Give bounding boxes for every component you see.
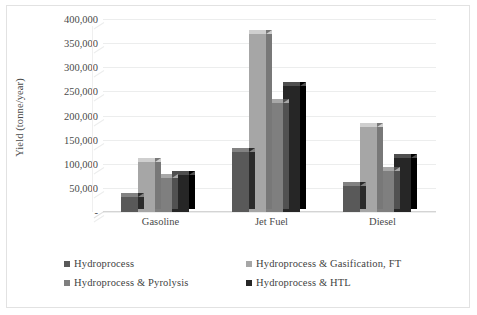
y-axis-line — [92, 26, 93, 212]
bar-top-corner — [360, 182, 366, 186]
bar-side-face — [377, 123, 383, 209]
y-axis-tick-label: 400,000 — [64, 14, 98, 25]
bar-top-corner — [394, 167, 400, 171]
legend-color-swatch — [246, 280, 252, 286]
legend-item-label: Hydroprocess & Pyrolysis — [74, 277, 188, 288]
bar — [343, 185, 360, 212]
y-axis-title: Yield (tonne/year) — [14, 53, 25, 183]
bar-top-face — [343, 182, 360, 186]
bar-top-corner — [411, 154, 417, 158]
gridline — [103, 212, 436, 213]
bar-side-face — [172, 174, 178, 209]
bar-top-corner — [283, 99, 289, 103]
bar-top-face — [249, 30, 266, 34]
bar-front-face — [343, 185, 360, 212]
legend-item-label: Hydroprocess & HTL — [256, 277, 351, 288]
bar-top-corner — [300, 82, 306, 86]
bar-top-corner — [155, 158, 161, 162]
chart-legend: HydroprocessHydroprocess & Gasification,… — [64, 258, 420, 298]
legend-item-label: Hydroprocess — [74, 258, 134, 269]
x-axis-category-labels: GasolineJet FuelDiesel — [103, 216, 436, 236]
bar-side-face — [189, 171, 195, 209]
bar-top-corner — [266, 30, 272, 34]
legend-item[interactable]: Hydroprocess & Pyrolysis — [64, 277, 188, 288]
bar-side-face — [283, 99, 289, 209]
legend-color-swatch — [64, 280, 70, 286]
bar-top-corner — [189, 171, 195, 175]
plot-wrapper: Yield (tonne/year) -50,000100,000150,000… — [0, 0, 477, 250]
bar-top-face — [283, 82, 300, 86]
bar-top-face — [121, 193, 138, 197]
bar-group — [121, 19, 189, 212]
x-axis-category-label: Jet Fuel — [255, 216, 288, 227]
bar-side-face — [249, 148, 255, 209]
bar-top-face — [360, 123, 377, 127]
bar-top-corner — [172, 174, 178, 178]
legend-item[interactable]: Hydroprocess — [64, 258, 134, 269]
legend-color-swatch — [64, 261, 70, 267]
bar-group — [343, 19, 411, 212]
legend-color-swatch — [246, 261, 252, 267]
x-axis-category-label: Gasoline — [142, 216, 179, 227]
bar-top-corner — [377, 123, 383, 127]
legend-item[interactable]: Hydroprocess & Gasification, FT — [246, 258, 401, 269]
x-axis-category-label: Diesel — [369, 216, 396, 227]
bar-side-face — [266, 30, 272, 209]
bar-top-face — [232, 148, 249, 152]
bar-top-face — [138, 158, 155, 162]
bar-front-face — [121, 196, 138, 212]
bar-top-corner — [138, 193, 144, 197]
bar-side-face — [155, 158, 161, 209]
bar-front-face — [232, 151, 249, 212]
legend-item-label: Hydroprocess & Gasification, FT — [256, 258, 401, 269]
bar — [232, 151, 249, 212]
plot-area — [103, 19, 436, 212]
bar-top-corner — [249, 148, 255, 152]
bar-top-face — [394, 154, 411, 158]
bar-group — [232, 19, 300, 212]
y-axis-tick-label: 50,000 — [69, 182, 98, 193]
chart-container: Yield (tonne/year) -50,000100,000150,000… — [0, 0, 477, 315]
bar-side-face — [394, 167, 400, 209]
legend-item[interactable]: Hydroprocess & HTL — [246, 277, 351, 288]
bar — [121, 196, 138, 212]
bar-side-face — [411, 154, 417, 209]
bar-side-face — [300, 82, 306, 209]
